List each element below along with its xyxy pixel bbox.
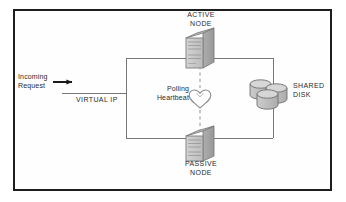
- heart-icon: [189, 90, 211, 108]
- shared-disk-stack-icon: [250, 80, 287, 109]
- virtual-ip-label: VIRTUAL IP: [76, 96, 136, 105]
- shared-disk-label: SHARED DISK: [293, 82, 337, 99]
- passive-node-label: PASSIVE NODE: [163, 160, 239, 177]
- polling-heartbeat-label: Polling Heartbeat: [137, 85, 189, 102]
- passive-node-server-icon: [186, 126, 214, 161]
- active-node-server-icon: [186, 28, 214, 68]
- disk-front: [257, 90, 278, 109]
- incoming-request-label: Incoming Request: [18, 73, 66, 90]
- heartbeat-link: [189, 66, 211, 132]
- diagram-page: ACTIVE NODE PASSIVE NODE Incoming Reques…: [0, 0, 346, 202]
- active-node-label: ACTIVE NODE: [163, 11, 239, 28]
